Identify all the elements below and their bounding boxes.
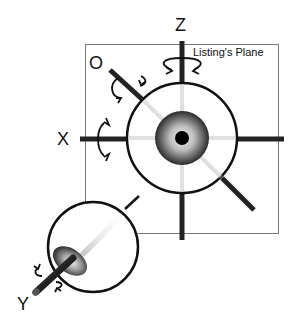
- pupil: [175, 131, 189, 145]
- connector-line: [125, 196, 139, 209]
- plane-label: Listing's Plane: [193, 47, 264, 58]
- axis-label-o: O: [89, 54, 103, 72]
- axis-label-y: Y: [17, 295, 29, 313]
- axis-label-x: X: [57, 130, 69, 148]
- axis-label-z: Z: [175, 16, 186, 34]
